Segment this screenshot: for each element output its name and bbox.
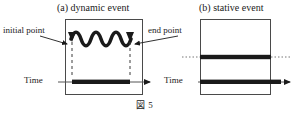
end-point-arrowhead xyxy=(126,32,134,42)
initial-point-leader-line xyxy=(40,36,67,44)
initial-point-arrowhead xyxy=(68,32,76,42)
panel-b-upper-bar xyxy=(200,55,271,59)
dynamic-wave xyxy=(71,32,131,46)
panel-a-event-interval-bar xyxy=(72,80,130,84)
figure-container: (a) dynamic event (b) stative event init… xyxy=(0,0,298,121)
end-point-leader-line xyxy=(135,36,178,44)
diagram-vector-layer xyxy=(0,0,298,121)
panel-b-lower-bar xyxy=(200,80,281,84)
